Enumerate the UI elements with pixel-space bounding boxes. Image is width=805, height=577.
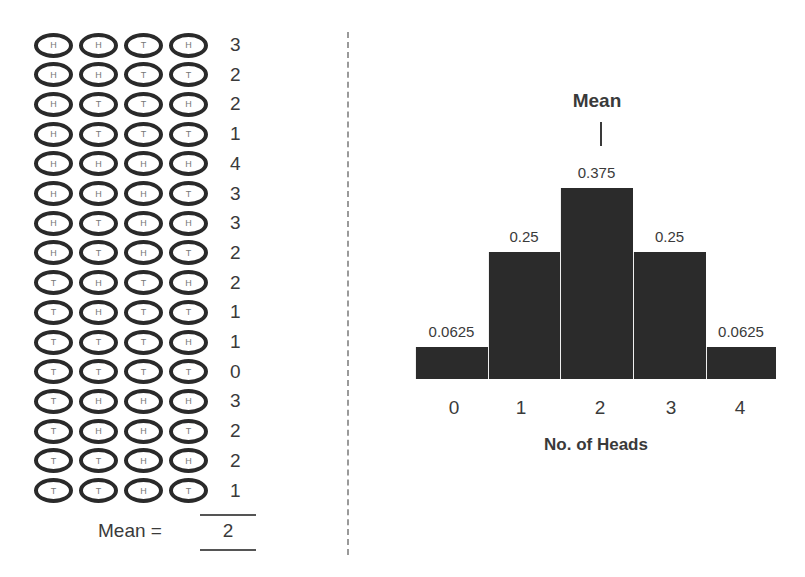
- mean-marker-label: Mean: [567, 90, 627, 112]
- x-tick-label: 4: [720, 397, 760, 419]
- mean-marker-tick: [600, 122, 602, 146]
- histogram-bar: [706, 347, 776, 379]
- x-tick-label: 2: [580, 397, 620, 419]
- x-tick-label: 1: [501, 397, 541, 419]
- bar-value-label: 0.0625: [701, 323, 781, 340]
- x-axis-label: No. of Heads: [540, 435, 652, 455]
- bar-value-label: 0.0625: [412, 323, 492, 340]
- histogram-bar: [415, 347, 488, 379]
- histogram-bar: [560, 188, 633, 379]
- x-tick-label: 3: [651, 397, 691, 419]
- x-tick-label: 0: [434, 397, 474, 419]
- histogram-bar: [633, 252, 706, 379]
- bar-value-label: 0.25: [630, 228, 710, 245]
- histogram-chart: Mean No. of Heads 0.062500.2510.37520.25…: [0, 0, 805, 577]
- bar-value-label: 0.25: [484, 228, 564, 245]
- bar-value-label: 0.375: [557, 164, 637, 181]
- histogram-bar: [488, 252, 560, 379]
